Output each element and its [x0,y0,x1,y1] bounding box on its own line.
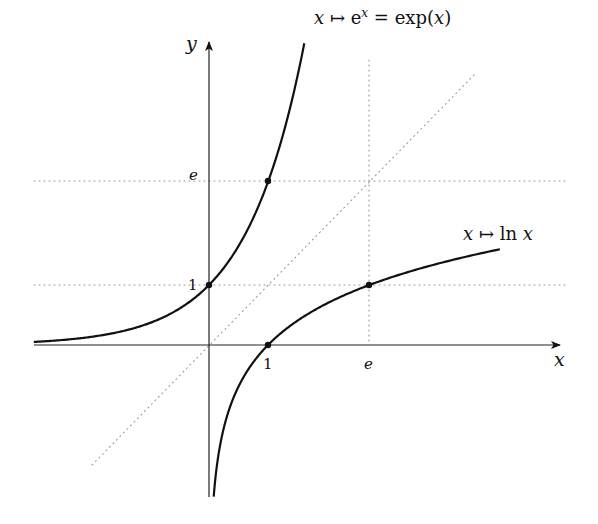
tick-label-y-e: e [189,166,198,184]
tick-label-x-e: e [364,355,373,373]
ln-curve-label: x ↦ ln x [463,223,533,244]
function-diagram: y x 1 e 1 e x ↦ ex = exp(x) x ↦ ln x [0,0,598,524]
exp-curve-label: x ↦ ex = exp(x) [314,6,451,28]
tick-label-y-1: 1 [188,276,198,294]
tick-label-x-1: 1 [263,355,273,373]
point-exp-1-e [265,178,271,184]
exp-curve [34,43,305,342]
point-ln-1-0 [265,342,271,348]
axes [34,42,560,497]
marked-points [206,178,372,348]
ln-curve [214,249,500,496]
y-axis-label: y [185,32,197,54]
dotted-guides [34,60,566,465]
point-exp-0-1 [206,282,212,288]
x-axis-label: x [554,348,565,370]
point-ln-e-1 [366,282,372,288]
